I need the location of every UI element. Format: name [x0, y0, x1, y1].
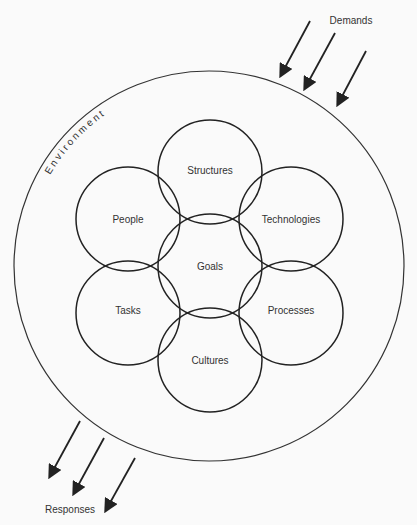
demand-arrow	[338, 51, 366, 104]
tasks-label: Tasks	[115, 305, 141, 316]
responses-label: Responses	[45, 504, 95, 515]
response-arrow	[74, 438, 104, 493]
response-arrow	[106, 458, 135, 510]
people-label: People	[112, 214, 143, 225]
processes-label: Processes	[268, 305, 315, 316]
response-arrow	[50, 421, 80, 476]
structures-label: Structures	[187, 165, 233, 176]
demand-arrow	[305, 33, 335, 88]
cultures-label: Cultures	[191, 355, 228, 366]
demand-arrow	[281, 21, 310, 75]
goals-label: Goals	[197, 261, 223, 272]
demands-label: Demands	[330, 15, 373, 26]
technologies-label: Technologies	[262, 214, 320, 225]
environment-label: Environment	[42, 107, 107, 176]
